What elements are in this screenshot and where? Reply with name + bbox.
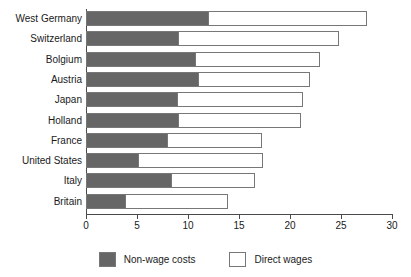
bar-segment-direct-wages — [171, 174, 255, 187]
y-axis-category-label: Italy — [2, 173, 82, 188]
bar-row — [86, 52, 392, 67]
y-axis-category-label: Britain — [2, 194, 82, 209]
x-axis-tick-label: 20 — [275, 220, 305, 231]
bar-segment-direct-wages — [178, 114, 300, 127]
bar-segment-direct-wages — [195, 53, 318, 66]
bar-row — [86, 92, 392, 107]
bar-segment-direct-wages — [167, 134, 262, 147]
x-axis-tick-label: 0 — [71, 220, 101, 231]
bar-row — [86, 153, 392, 168]
y-axis-category-label: Holland — [2, 113, 82, 128]
x-axis-tick-mark — [188, 215, 189, 219]
stacked-bar — [86, 92, 303, 107]
bar-row — [86, 31, 392, 46]
bar-segment-non-wage-costs — [87, 154, 139, 167]
legend-label: Direct wages — [254, 254, 312, 265]
bar-segment-direct-wages — [208, 12, 366, 25]
y-axis-category-label: Switzerland — [2, 31, 82, 46]
bar-segment-non-wage-costs — [87, 195, 126, 208]
bar-segment-non-wage-costs — [87, 12, 209, 25]
stacked-bar — [86, 11, 367, 26]
y-axis-category-label: Austria — [2, 72, 82, 87]
legend-label: Non-wage costs — [124, 254, 196, 265]
y-axis-category-label: West Germany — [2, 11, 82, 26]
bar-row — [86, 194, 392, 209]
bar-row — [86, 133, 392, 148]
stacked-bar-chart: West GermanySwitzerlandBolgiumAustriaJap… — [0, 0, 411, 277]
x-axis-tick-label: 10 — [173, 220, 203, 231]
stacked-bar — [86, 194, 228, 209]
legend-item: Non-wage costs — [99, 252, 196, 267]
bar-segment-non-wage-costs — [87, 174, 172, 187]
chart-legend: Non-wage costsDirect wages — [0, 246, 411, 272]
x-axis-tick-label: 25 — [326, 220, 356, 231]
bar-segment-direct-wages — [138, 154, 262, 167]
x-axis-tick-label: 5 — [122, 220, 152, 231]
stacked-bar — [86, 173, 255, 188]
bar-row — [86, 11, 392, 26]
x-axis-tick-mark — [341, 215, 342, 219]
bar-segment-non-wage-costs — [87, 134, 168, 147]
plot-area — [86, 9, 392, 214]
bar-segment-non-wage-costs — [87, 114, 179, 127]
stacked-bar — [86, 31, 339, 46]
y-axis-category-labels: West GermanySwitzerlandBolgiumAustriaJap… — [0, 9, 82, 214]
y-axis-category-label: France — [2, 133, 82, 148]
dark-gray-swatch — [99, 252, 116, 267]
stacked-bar — [86, 153, 263, 168]
bar-row — [86, 113, 392, 128]
bar-segment-non-wage-costs — [87, 73, 199, 86]
x-axis-tick-mark — [137, 215, 138, 219]
x-axis-tick-mark — [86, 215, 87, 219]
bar-segment-non-wage-costs — [87, 53, 196, 66]
bar-segment-direct-wages — [178, 32, 338, 45]
x-axis-tick-mark — [290, 215, 291, 219]
bar-segment-non-wage-costs — [87, 32, 179, 45]
x-axis-tick-mark — [239, 215, 240, 219]
bar-row — [86, 72, 392, 87]
stacked-bar — [86, 113, 301, 128]
stacked-bar — [86, 52, 320, 67]
y-axis-category-label: Japan — [2, 92, 82, 107]
bar-segment-direct-wages — [177, 93, 302, 106]
x-axis-tick-mark — [392, 215, 393, 219]
bar-segment-non-wage-costs — [87, 93, 178, 106]
y-axis-category-label: Bolgium — [2, 52, 82, 67]
stacked-bar — [86, 133, 262, 148]
bar-row — [86, 173, 392, 188]
x-axis-tick-label: 30 — [377, 220, 407, 231]
stacked-bar — [86, 72, 310, 87]
y-axis-category-label: United States — [2, 153, 82, 168]
bar-segment-direct-wages — [198, 73, 309, 86]
x-axis-tick-label: 15 — [224, 220, 254, 231]
white-swatch — [229, 252, 246, 267]
legend-item: Direct wages — [229, 252, 312, 267]
bar-segment-direct-wages — [125, 195, 227, 208]
